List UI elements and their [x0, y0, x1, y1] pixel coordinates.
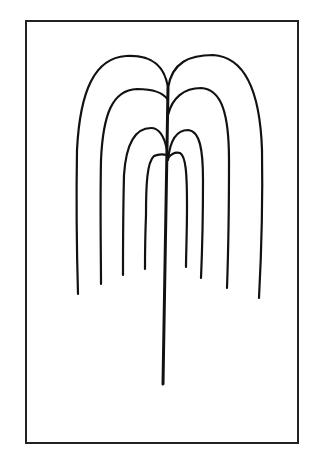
branch-left-4 — [145, 154, 167, 269]
willow-drawing — [0, 0, 318, 464]
branch-left-2 — [101, 89, 168, 284]
willow-trunk — [163, 88, 168, 384]
branch-right-1 — [168, 55, 262, 298]
branch-right-4 — [168, 153, 187, 267]
branch-right-2 — [168, 88, 229, 288]
willow-figure: Weeping willow line drawing — [0, 0, 318, 464]
